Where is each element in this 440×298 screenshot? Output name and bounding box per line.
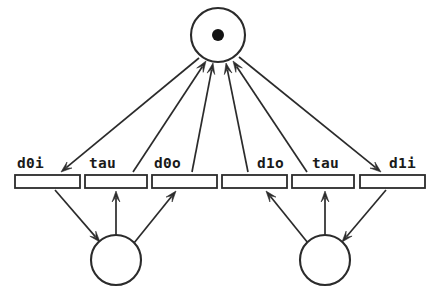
petri-net-diagram: d0itaud0od1otaud1i xyxy=(0,0,440,298)
arc-top-place-to-d0i-line xyxy=(66,58,199,168)
place-left-place[interactable] xyxy=(91,235,141,285)
place-top-place[interactable] xyxy=(191,8,245,62)
transition-label-t0: d0i xyxy=(17,156,44,171)
arcs-layer xyxy=(55,57,386,243)
arc-left-place-to-d0o xyxy=(134,191,176,243)
places-layer xyxy=(91,8,350,285)
transition-tau-t1[interactable] xyxy=(85,175,147,188)
transition-label-t2: d0o xyxy=(154,156,181,171)
arc-tau-left-to-top-place-arrowhead xyxy=(197,61,206,72)
arc-top-place-to-d1i-line xyxy=(239,57,376,168)
transition-label-t5: d1i xyxy=(389,156,416,171)
arc-d0o-to-top-place-line xyxy=(192,70,212,172)
arc-d1i-to-right-place-line xyxy=(346,190,386,237)
left-place-circle[interactable] xyxy=(91,235,141,285)
transitions-layer xyxy=(15,175,425,188)
arc-d1i-to-right-place xyxy=(342,190,386,242)
arc-right-place-to-d1o xyxy=(266,191,308,243)
place-right-place[interactable] xyxy=(300,235,350,285)
transition-d1i-t5[interactable] xyxy=(360,175,425,188)
top-place-token xyxy=(212,29,224,41)
arc-d0i-to-left-place-line xyxy=(55,190,96,237)
transition-d0o-t2[interactable] xyxy=(152,175,217,188)
arc-right-place-to-tau xyxy=(321,191,329,235)
arc-tau-right-to-top-place-arrowhead xyxy=(233,61,242,72)
right-place-circle[interactable] xyxy=(300,235,350,285)
arc-d1o-to-top-place-line xyxy=(227,70,248,172)
transition-d1o-t3[interactable] xyxy=(222,175,287,188)
arc-left-place-to-tau xyxy=(112,191,120,235)
transition-label-t1: tau xyxy=(89,156,116,171)
transition-label-t4: tau xyxy=(312,156,339,171)
petri-net-canvas xyxy=(0,0,440,298)
arc-d0i-to-left-place xyxy=(55,190,100,242)
arc-right-place-to-d1o-line xyxy=(270,196,308,243)
transition-label-t3: d1o xyxy=(257,156,284,171)
arc-left-place-to-d0o-line xyxy=(134,196,172,243)
transition-tau-t4[interactable] xyxy=(292,175,354,188)
arc-d0o-to-top-place xyxy=(192,63,215,172)
transition-d0i-t0[interactable] xyxy=(15,175,80,188)
